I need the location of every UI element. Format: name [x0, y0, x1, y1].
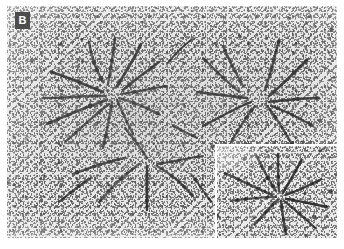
main-fiber-bead — [145, 199, 149, 203]
main-debris-granule — [207, 216, 209, 218]
main-fiber-bead — [132, 132, 134, 134]
main-debris-granule — [23, 218, 26, 221]
main-fiber-bead — [273, 115, 277, 119]
inset-fiber-bead — [313, 203, 315, 205]
main-fiber-bead — [145, 187, 149, 191]
inset-debris-granule — [312, 215, 317, 220]
main-fiber-bead — [107, 190, 110, 193]
inset-fiber-bead — [244, 197, 248, 201]
inset-fiber-bead — [284, 188, 287, 191]
main-fiber-bead — [121, 112, 124, 115]
main-fiber-bead — [309, 123, 313, 127]
main-fiber-bead — [304, 59, 308, 63]
main-fiber-bead — [86, 84, 89, 87]
main-fiber-bead — [110, 58, 114, 62]
main-fiber-bead — [104, 134, 108, 138]
main-debris-granule — [134, 45, 136, 47]
main-fiber-bead — [179, 47, 182, 50]
main-fiber-bead — [135, 78, 138, 81]
main-fiber-bead — [211, 66, 213, 68]
main-debris-granule — [301, 140, 303, 142]
inset-debris-granule — [224, 198, 226, 200]
main-fiber-bead — [239, 125, 242, 128]
main-fiber-bead — [160, 161, 164, 165]
inset-debris-granule — [296, 155, 297, 156]
main-fiber-bead — [272, 58, 276, 62]
main-fiber-bead — [130, 61, 133, 64]
main-fiber-bead — [188, 157, 191, 160]
main-fiber-bead — [228, 110, 231, 113]
inset-debris-granule — [303, 192, 306, 195]
main-debris-granule — [308, 10, 311, 13]
main-fiber-bead — [132, 90, 136, 94]
inset-fiber-bead — [264, 191, 267, 194]
main-fiber-bead — [66, 113, 70, 117]
main-fiber-bead — [269, 108, 272, 111]
main-fiber-bead — [269, 67, 274, 72]
main-fiber-bead — [153, 63, 157, 67]
main-fiber-bead — [146, 205, 149, 208]
main-fiber-bead — [126, 172, 129, 175]
main-fiber-bead — [73, 110, 77, 114]
inset-fiber-bead — [294, 170, 297, 173]
main-fiber-bead — [150, 66, 153, 69]
inset-debris-granule — [325, 215, 328, 218]
main-fiber-bead — [193, 178, 196, 181]
main-fiber-bead — [204, 192, 207, 195]
main-fiber-bead — [155, 111, 159, 115]
main-debris-granule — [77, 65, 80, 68]
main-fiber-bead — [244, 116, 248, 120]
inset-fiber-bead — [324, 205, 328, 209]
inset-fiber-bead — [311, 182, 314, 185]
inset-fiber-bead — [256, 186, 260, 190]
inset-debris-granule — [318, 149, 321, 152]
main-fiber — [157, 166, 193, 196]
main-fiber-bead — [233, 70, 237, 74]
inset-debris-granule — [217, 160, 219, 162]
main-debris-granule — [196, 10, 198, 12]
main-fiber-bead — [299, 118, 302, 121]
main-fiber-bead — [177, 158, 181, 162]
main-fiber-bead — [168, 59, 171, 62]
main-fiber-bead — [207, 197, 210, 200]
inset-fiber-bead — [224, 172, 227, 175]
main-fiber-bead — [275, 49, 278, 52]
main-fiber-bead — [77, 184, 81, 188]
main-fiber-bead — [200, 91, 202, 93]
inset-fiber-bead — [255, 197, 257, 199]
main-fiber-bead — [75, 170, 79, 174]
main-fiber-bead — [272, 100, 276, 104]
main-fiber-bead — [180, 129, 182, 131]
main-fiber-bead — [106, 126, 108, 128]
inset-fiber-bead — [301, 187, 304, 190]
main-fiber-bead — [119, 176, 124, 181]
main-debris-granule — [291, 92, 295, 96]
main-fiber-bead — [138, 45, 142, 49]
main-fiber-bead — [271, 90, 276, 95]
main-fiber-bead — [276, 106, 280, 110]
main-fiber-bead — [125, 128, 127, 130]
main-fiber-bead — [245, 102, 249, 106]
main-fiber-bead — [265, 85, 268, 88]
main-fiber-bead — [235, 107, 237, 109]
main-debris-granule — [270, 15, 271, 16]
main-debris-granule — [288, 17, 291, 20]
main-fiber-bead — [214, 69, 217, 72]
inset-debris-granule — [304, 234, 307, 237]
main-fiber-bead — [68, 96, 71, 99]
main-fiber-bead — [238, 95, 243, 100]
main-fiber-bead — [113, 38, 117, 42]
main-fiber-bead — [83, 180, 86, 183]
main-fiber-bead — [160, 168, 163, 171]
main-debris-granule — [90, 100, 92, 102]
main-fiber-bead — [95, 68, 99, 72]
main-fiber-bead — [135, 142, 139, 146]
main-fiber-bead — [233, 95, 235, 97]
inset-fiber-bead — [237, 178, 240, 181]
main-fiber-bead — [227, 57, 229, 59]
main-fiber-bead — [281, 99, 284, 102]
panel-label-badge: B — [15, 12, 30, 29]
main-debris-granule — [314, 36, 316, 38]
inset-fiber-bead — [271, 184, 275, 188]
main-debris-granule — [23, 9, 25, 11]
